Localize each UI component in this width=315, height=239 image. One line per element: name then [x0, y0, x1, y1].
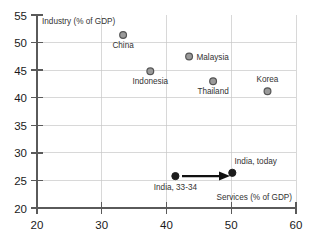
data-point-thailand[interactable]: [210, 78, 217, 85]
x-axis-title: Services (% of GDP): [216, 193, 292, 202]
y-tick-label-35: 35: [14, 120, 27, 132]
y-tick-label-55: 55: [14, 10, 27, 22]
y-tick-label-50: 50: [14, 37, 27, 49]
x-tick-label-40: 40: [160, 219, 173, 231]
x-tick-label-20: 20: [31, 219, 44, 231]
y-tick-label-20: 20: [14, 203, 27, 215]
y-tick-label-30: 30: [14, 147, 27, 159]
data-label-india-33-34: India, 33-34: [154, 183, 198, 192]
x-tick-label-50: 50: [225, 219, 238, 231]
data-point-korea[interactable]: [264, 88, 271, 95]
data-point-indonesia[interactable]: [147, 68, 154, 75]
data-label-malaysia: Malaysia: [197, 53, 230, 62]
y-axis-title: Industry (% of GDP): [42, 17, 116, 26]
data-point-china[interactable]: [120, 32, 127, 39]
data-label-korea: Korea: [257, 75, 279, 84]
data-label-india-today: India, today: [235, 157, 278, 166]
y-tick-label-25: 25: [14, 175, 27, 187]
y-tick-label-45: 45: [14, 65, 27, 77]
data-label-indonesia: Indonesia: [133, 77, 169, 86]
y-tick-label-40: 40: [14, 92, 27, 104]
data-point-india-33-34[interactable]: [172, 173, 179, 180]
data-label-china: China: [112, 41, 134, 50]
data-label-thailand: Thailand: [197, 87, 229, 96]
x-tick-label-30: 30: [95, 219, 108, 231]
data-point-malaysia[interactable]: [186, 53, 193, 60]
scatter-chart: 55 50 45 40 35 30 25 20 20 30 40 50 60 I…: [0, 0, 315, 239]
x-tick-label-60: 60: [290, 219, 303, 231]
data-point-india-today[interactable]: [229, 169, 236, 176]
chart-canvas: 55 50 45 40 35 30 25 20 20 30 40 50 60 I…: [0, 0, 315, 239]
chart-background: [0, 0, 315, 239]
